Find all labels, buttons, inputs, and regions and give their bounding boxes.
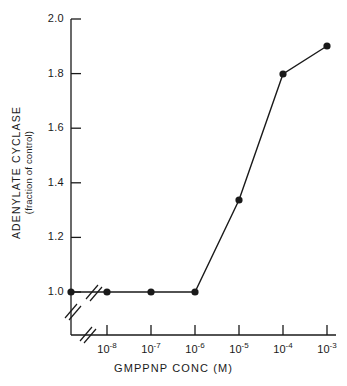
series-markers (67, 42, 330, 295)
data-point-1e-4 (279, 70, 286, 77)
x-tick-base-1e-8: 10 (97, 343, 109, 355)
x-tick-label-1e-6: 10-6 (173, 341, 217, 355)
x-tick-base-1e-5: 10 (229, 343, 241, 355)
data-point-1e-6 (191, 288, 198, 295)
y-tick-label-1-0: 1.0 (34, 285, 64, 297)
x-tick-label-1e-7: 10-7 (129, 341, 173, 355)
series-line (71, 46, 327, 292)
x-axis-title: GMPPNP CONC (M) (0, 362, 347, 374)
x-tick-base-1e-4: 10 (273, 343, 285, 355)
y-tick-label-1-4: 1.4 (34, 176, 64, 188)
x-tick-exp-1e-4: -4 (286, 341, 293, 350)
y-axis-break-icon (65, 304, 81, 320)
x-tick-exp-1e-3: -3 (330, 341, 337, 350)
y-tick-label-1-2: 1.2 (34, 230, 64, 242)
y-axis-title: ADENYLATE CYCLASE (fraction of control) (10, 83, 35, 263)
x-tick-label-1e-3: 10-3 (305, 341, 347, 355)
data-point-1e-8 (103, 288, 110, 295)
y-axis-title-line1: ADENYLATE CYCLASE (10, 83, 23, 263)
x-tick-base-1e-6: 10 (185, 343, 197, 355)
x-tick-label-1e-5: 10-5 (217, 341, 261, 355)
y-tick-label-1-6: 1.6 (34, 121, 64, 133)
x-tick-exp-1e-7: -7 (154, 341, 161, 350)
series-break-icon (86, 285, 102, 301)
data-point-0 (67, 288, 74, 295)
data-point-1e-5 (235, 196, 242, 203)
y-axis-title-line2: (fraction of control) (23, 83, 35, 263)
x-tick-base-1e-3: 10 (317, 343, 329, 355)
y-tick-label-1-8: 1.8 (34, 67, 64, 79)
y-axis-ticks (71, 19, 81, 292)
x-tick-label-1e-4: 10-4 (261, 341, 305, 355)
data-point-1e-7 (147, 288, 154, 295)
chart-figure: 2.0 1.8 1.6 1.4 1.2 1.0 10-8 10-7 10-6 1… (0, 0, 347, 386)
x-axis-ticks (107, 325, 327, 335)
data-point-1e-3 (323, 42, 330, 49)
line-chart-plot (0, 0, 347, 386)
x-tick-exp-1e-6: -6 (198, 341, 205, 350)
x-tick-exp-1e-5: -5 (242, 341, 249, 350)
x-tick-base-1e-7: 10 (141, 343, 153, 355)
x-tick-exp-1e-8: -8 (110, 341, 117, 350)
y-tick-label-2-0: 2.0 (34, 12, 64, 24)
x-tick-label-1e-8: 10-8 (85, 341, 129, 355)
